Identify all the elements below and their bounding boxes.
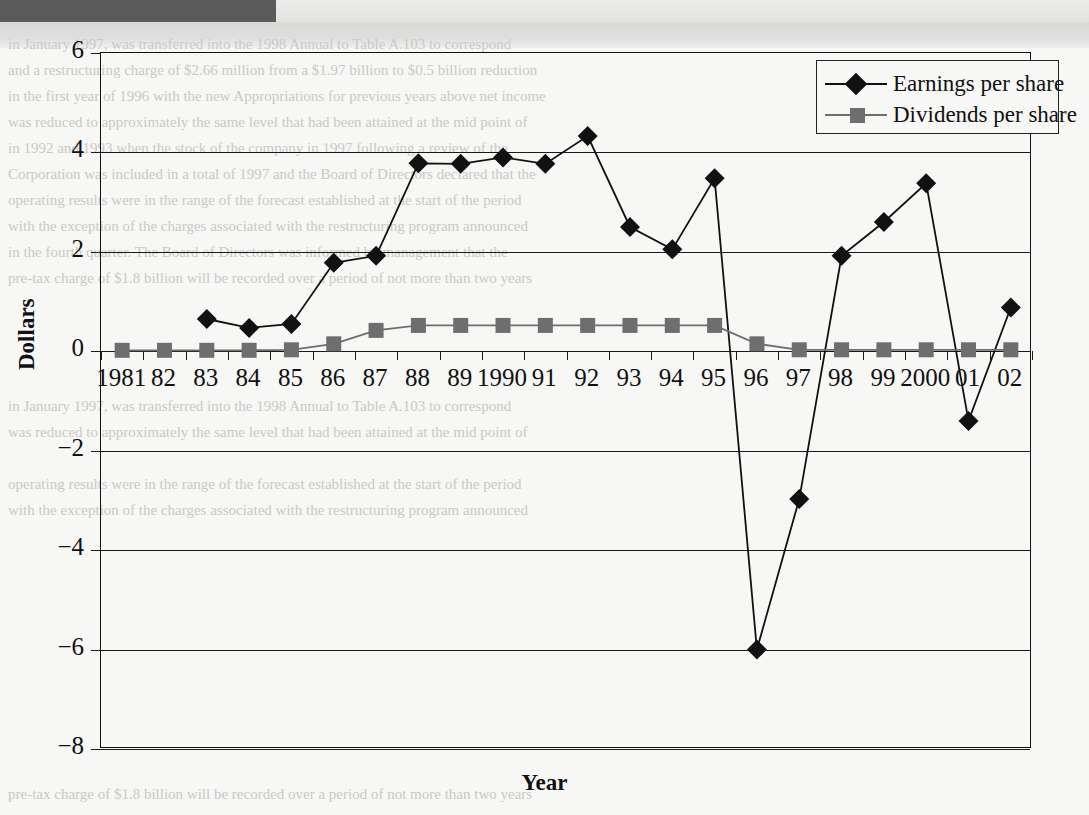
data-point-marker: [535, 154, 555, 174]
x-axis-title: Year: [0, 770, 1089, 796]
x-axis-tick-label: 99: [870, 364, 895, 392]
x-axis-tick-label: 97: [786, 364, 811, 392]
data-point-marker: [961, 342, 976, 357]
data-point-marker: [919, 342, 934, 357]
x-axis-tick-label: 98: [828, 364, 853, 392]
data-point-marker: [789, 489, 809, 509]
x-axis-tick-label: 1990: [477, 364, 527, 392]
y-axis-tick: [91, 252, 101, 253]
x-axis-tick-label: 1981: [96, 364, 146, 392]
x-axis-tick-label: 92: [574, 364, 599, 392]
data-point-marker: [453, 318, 468, 333]
data-point-marker: [1001, 298, 1021, 318]
series-line-earnings: [207, 136, 1011, 650]
data-point-marker: [493, 147, 513, 167]
legend-item-earnings: Earnings per share: [825, 68, 1058, 99]
data-point-marker: [197, 309, 217, 329]
y-axis-tick-label: −8: [26, 732, 84, 760]
x-axis-tick-label: 96: [743, 364, 768, 392]
x-axis-tick-label: 88: [405, 364, 430, 392]
y-axis-tick-label: 4: [26, 135, 84, 163]
gridline: [101, 749, 1030, 750]
legend-label-earnings: Earnings per share: [887, 71, 1064, 97]
y-axis-tick: [91, 351, 101, 352]
x-axis-tick-label: 94: [659, 364, 684, 392]
y-axis-tick: [91, 451, 101, 452]
data-point-marker: [242, 343, 257, 358]
data-point-marker: [284, 342, 299, 357]
data-point-marker: [157, 343, 172, 358]
y-axis-tick-label: 2: [26, 235, 84, 263]
data-point-marker: [834, 342, 849, 357]
data-point-marker: [1003, 342, 1018, 357]
data-point-marker: [959, 411, 979, 431]
data-point-marker: [665, 318, 680, 333]
data-point-marker: [876, 342, 891, 357]
data-point-marker: [747, 640, 767, 660]
y-axis-tick-label: 0: [26, 334, 84, 362]
x-axis-tick-label: 83: [193, 364, 218, 392]
y-axis-tick: [91, 550, 101, 551]
y-axis-tick-label: 6: [26, 36, 84, 64]
x-axis-tick-label: 91: [532, 364, 557, 392]
x-axis-tick-label: 85: [278, 364, 303, 392]
legend-item-dividends: Dividends per share: [825, 99, 1058, 130]
y-axis-tick: [91, 53, 101, 54]
plot-area: [100, 52, 1031, 748]
x-axis-tick-label: 89: [447, 364, 472, 392]
data-point-marker: [326, 336, 341, 351]
x-axis-tick-label: 82: [151, 364, 176, 392]
data-point-marker: [281, 314, 301, 334]
data-point-marker: [749, 336, 764, 351]
x-axis-tick-label: 86: [320, 364, 345, 392]
legend-label-dividends: Dividends per share: [887, 102, 1077, 128]
x-axis-tick-label: 2000: [900, 364, 950, 392]
data-point-marker: [792, 342, 807, 357]
y-axis-tick: [91, 749, 101, 750]
x-axis-tick-label: 93: [616, 364, 641, 392]
data-point-marker: [408, 153, 428, 173]
data-point-marker: [707, 318, 722, 333]
y-axis-tick-label: −4: [26, 533, 84, 561]
data-point-marker: [239, 318, 259, 338]
x-axis-tick-label: 01: [955, 364, 980, 392]
x-axis-tick-label: 87: [363, 364, 388, 392]
y-axis-tick: [91, 650, 101, 651]
data-point-marker: [622, 318, 637, 333]
x-axis-tick-label: 84: [236, 364, 261, 392]
legend-swatch-diamond-icon: [825, 74, 887, 94]
data-point-marker: [580, 318, 595, 333]
x-axis-tick-label: 02: [997, 364, 1022, 392]
data-point-marker: [324, 253, 344, 273]
data-point-marker: [578, 126, 598, 146]
data-point-marker: [451, 154, 471, 174]
x-axis-tick: [1032, 351, 1033, 360]
data-point-marker: [705, 168, 725, 188]
data-point-marker: [538, 318, 553, 333]
x-axis-tick-label: 95: [701, 364, 726, 392]
chart-legend: Earnings per share Dividends per share: [816, 60, 1059, 134]
data-point-marker: [832, 246, 852, 266]
data-point-marker: [411, 318, 426, 333]
y-axis-tick-label: −2: [26, 434, 84, 462]
data-point-marker: [496, 318, 511, 333]
data-point-marker: [366, 246, 386, 266]
data-series-layer: [101, 53, 1032, 749]
data-point-marker: [369, 323, 384, 338]
y-axis-tick: [91, 152, 101, 153]
earnings-dividends-line-chart: Dollars Year 6420−2−4−6−8 19818283848586…: [0, 0, 1089, 815]
legend-swatch-square-icon: [825, 105, 887, 125]
data-point-marker: [620, 217, 640, 237]
data-point-marker: [115, 343, 130, 358]
data-point-marker: [662, 239, 682, 259]
y-axis-tick-label: −6: [26, 633, 84, 661]
data-point-marker: [199, 343, 214, 358]
